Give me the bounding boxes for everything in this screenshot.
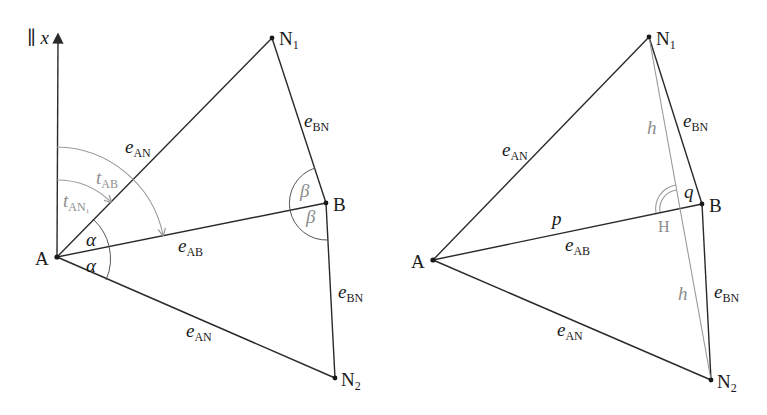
label-eBN-top: eBN: [304, 110, 329, 134]
label-tAN1: tAN₁: [63, 190, 90, 214]
edge-A-N2: [433, 260, 711, 380]
label-alpha-bottom: α: [86, 255, 97, 276]
label-eBN-bottom: eBN: [338, 281, 363, 305]
label-beta-top: β: [299, 180, 310, 201]
edge-B-N2: [326, 203, 335, 378]
label-tAB: tAB: [96, 167, 118, 191]
label-B: B: [333, 194, 346, 215]
label-q: q: [684, 181, 694, 202]
point-N1: [270, 36, 275, 41]
point-A: [430, 257, 435, 262]
label-A: A: [411, 251, 425, 272]
label-N1: N1: [279, 28, 299, 52]
point-N2: [333, 376, 338, 381]
arc-tAB: [57, 147, 163, 235]
label-B: B: [709, 195, 722, 216]
arc-alpha-bottom: [106, 246, 111, 280]
label-N1: N1: [656, 28, 676, 52]
point-B: [700, 202, 705, 207]
point-A: [54, 254, 59, 259]
label-h-top: h: [647, 117, 657, 138]
label-eAB: eAB: [178, 235, 203, 259]
edge-A-N2: [57, 257, 335, 378]
point-N2: [709, 378, 714, 383]
right-angle-arc-inner: [660, 190, 677, 212]
label-H: H: [658, 218, 670, 235]
label-N2: N2: [341, 369, 361, 393]
label-p: p: [550, 208, 562, 229]
label-eAB: eAB: [565, 234, 590, 258]
label-A: A: [35, 248, 49, 269]
label-h-bottom: h: [678, 283, 688, 304]
right-angle-arc-outer: [656, 185, 676, 213]
point-B: [324, 201, 329, 206]
label-eAN-top: eAN: [502, 139, 528, 163]
left-diagram: ∥ x A N1 B N2 eAN eAB eAN eBN eBN: [27, 27, 363, 393]
edge-A-N1: [57, 38, 272, 257]
label-eAN-top: eAN: [125, 136, 151, 160]
label-eBN-bottom: eBN: [714, 281, 739, 305]
diagram-canvas: ∥ x A N1 B N2 eAN eAB eAN eBN eBN: [0, 0, 767, 415]
label-eBN-top: eBN: [683, 110, 708, 134]
label-N2: N2: [717, 371, 737, 395]
label-beta-bottom: β: [305, 206, 316, 227]
right-diagram: A N1 B N2 H eAN eAB eAN eBN eBN p q h h: [411, 28, 739, 395]
label-alpha-top: α: [86, 229, 97, 250]
label-eAN-bottom: eAN: [186, 320, 212, 344]
axis-label: ∥ x: [27, 27, 50, 48]
arc-alpha-top: [94, 220, 109, 246]
point-N1: [647, 35, 652, 40]
edge-A-N1: [433, 37, 649, 260]
